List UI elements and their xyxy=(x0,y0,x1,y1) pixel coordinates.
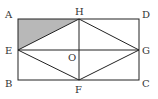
geometry-diagram: A B C D E F G H O xyxy=(0,0,158,99)
label-g: G xyxy=(142,45,150,56)
label-d: D xyxy=(142,9,150,20)
label-o: O xyxy=(68,52,76,63)
label-e: E xyxy=(5,45,12,56)
label-f: F xyxy=(75,84,82,95)
label-b: B xyxy=(5,78,12,89)
label-a: A xyxy=(4,9,13,20)
label-c: C xyxy=(142,78,150,89)
label-h: H xyxy=(75,6,84,17)
